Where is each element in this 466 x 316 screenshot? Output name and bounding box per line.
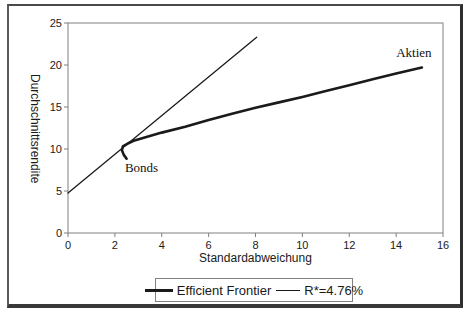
x-axis-title: Standardabweichung xyxy=(68,251,443,265)
annotation-bonds: Bonds xyxy=(125,160,158,176)
x-tick-label: 10 xyxy=(287,239,317,251)
x-tick-label: 16 xyxy=(428,239,458,251)
legend-label: Efficient Frontier xyxy=(177,283,271,298)
x-tick-label: 0 xyxy=(53,239,83,251)
efficient-frontier-line xyxy=(122,68,422,159)
x-tick-label: 12 xyxy=(334,239,364,251)
chart-legend: Efficient Frontier R*=4.76% xyxy=(155,278,353,302)
plot-area-border xyxy=(68,23,443,233)
x-tick-label: 8 xyxy=(241,239,271,251)
legend-item-efficient-frontier: Efficient Frontier xyxy=(145,283,271,298)
y-tick-label: 25 xyxy=(36,17,62,29)
legend-item-rstar: R*=4.76% xyxy=(276,283,363,298)
x-tick-label: 6 xyxy=(194,239,224,251)
legend-label: R*=4.76% xyxy=(304,283,363,298)
thick-line-swatch-icon xyxy=(145,289,173,292)
x-tick-label: 2 xyxy=(100,239,130,251)
y-tick-label: 0 xyxy=(36,227,62,239)
annotation-aktien: Aktien xyxy=(396,45,431,61)
x-tick-label: 14 xyxy=(381,239,411,251)
y-axis-title: Durchschnittsrendite xyxy=(28,54,42,204)
thin-line-swatch-icon xyxy=(276,290,300,291)
chart-stage: 02468101214160510152025 Standardabweichu… xyxy=(0,0,466,316)
x-tick-label: 4 xyxy=(147,239,177,251)
